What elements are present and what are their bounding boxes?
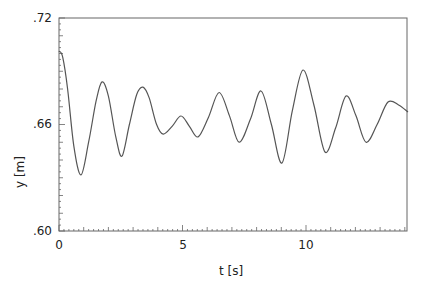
y-axis-ticks: [59, 18, 65, 231]
x-tick-label-0: 0: [44, 239, 74, 251]
y-axis-title: y [m]: [13, 156, 27, 188]
x-tick-label-5: 5: [168, 239, 198, 251]
x-axis-title: t [s]: [219, 264, 243, 278]
y-tick-label-top: .72: [12, 12, 52, 24]
plot-frame: [59, 18, 407, 231]
x-axis-ticks: [59, 225, 405, 231]
y-tick-label-mid: .66: [12, 118, 52, 130]
x-tick-label-10: 10: [291, 239, 321, 251]
series-line: [59, 51, 408, 175]
y-tick-label-bottom: .60: [12, 225, 52, 237]
